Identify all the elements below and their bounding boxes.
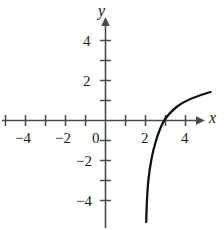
log-curve <box>146 92 210 222</box>
x-axis <box>2 115 205 126</box>
y-tick-label-2: 2 <box>83 74 91 89</box>
x-axis-label: x <box>209 110 216 126</box>
y-tick-label-neg2: −2 <box>76 154 92 169</box>
graph-figure: −4 −2 0 2 4 4 2 −2 −4 y x <box>0 0 224 230</box>
y-axis-label: y <box>98 3 105 19</box>
x-tick-label-2: 2 <box>141 131 149 146</box>
x-tick-label-zero: 0 <box>92 131 100 146</box>
y-axis <box>100 17 111 228</box>
y-tick-label-4: 4 <box>83 34 91 49</box>
x-tick-label-neg4: −4 <box>15 131 31 146</box>
x-tick-label-4: 4 <box>181 131 189 146</box>
coordinate-plane <box>0 0 224 230</box>
x-axis-arrowhead <box>196 116 205 125</box>
x-tick-label-neg2: −2 <box>55 131 71 146</box>
y-tick-label-neg4: −4 <box>76 194 92 209</box>
